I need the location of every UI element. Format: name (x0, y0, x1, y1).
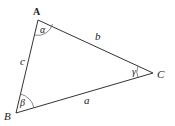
angle-arc-gamma (137, 66, 138, 78)
vertex-label-a: A (33, 6, 41, 17)
vertex-label-c: C (157, 68, 165, 80)
side-label-a: a (84, 94, 90, 106)
triangle-diagram: A B C c b a α β γ (0, 0, 175, 126)
angle-label-gamma: γ (132, 66, 137, 77)
side-label-b: b (95, 30, 101, 42)
side-label-c: c (20, 55, 25, 67)
angle-label-alpha: α (40, 24, 46, 35)
vertex-label-b: B (4, 110, 11, 122)
angle-label-beta: β (19, 97, 25, 108)
